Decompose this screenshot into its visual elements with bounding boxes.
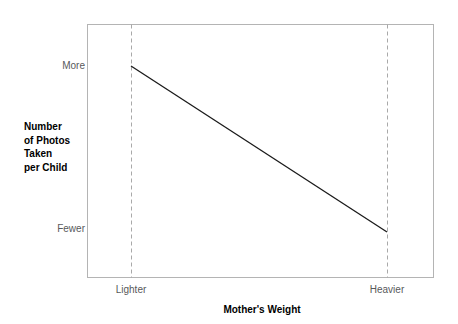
y-axis-title-line-2: of Photos bbox=[24, 134, 86, 148]
y-axis-tick-more: More bbox=[62, 60, 85, 72]
x-axis-tick-heavier: Heavier bbox=[370, 284, 404, 295]
chart-container: More Fewer Number of Photos Taken per Ch… bbox=[0, 0, 458, 324]
y-axis-title-line-4: per Child bbox=[24, 161, 86, 175]
y-axis-title: Number of Photos Taken per Child bbox=[24, 120, 86, 174]
x-axis-tick-lighter: Lighter bbox=[116, 284, 147, 295]
x-axis-title: Mother's Weight bbox=[223, 304, 300, 315]
plot-area-frame bbox=[87, 24, 434, 278]
y-axis-title-line-3: Taken bbox=[24, 147, 86, 161]
y-axis-title-line-1: Number bbox=[24, 120, 86, 134]
y-axis-tick-fewer: Fewer bbox=[57, 223, 85, 235]
